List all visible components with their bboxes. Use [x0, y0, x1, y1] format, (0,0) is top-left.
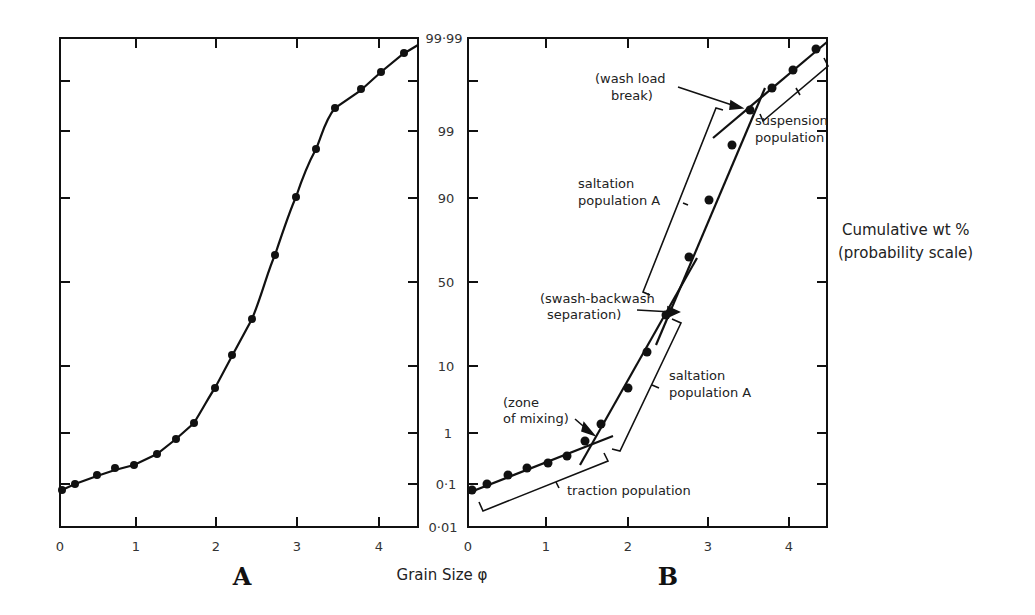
y-axis-title-line1: Cumulative wt % [842, 221, 970, 239]
svg-text:0·01: 0·01 [429, 520, 458, 535]
svg-text:50: 50 [438, 275, 455, 290]
svg-text:0·1: 0·1 [436, 477, 457, 492]
annot-suspension-2: population [755, 130, 824, 145]
x-tick-labels-a: 0 1 2 3 4 [56, 539, 383, 554]
panel-a [60, 38, 418, 527]
annot-traction: traction population [567, 483, 691, 498]
annot-suspension-1: suspension [755, 113, 828, 128]
panel-label-b: B [658, 562, 678, 591]
y-tick-labels: 99·99 99 90 50 10 1 0·1 0·01 [425, 31, 462, 535]
x-axis-title: Grain Size φ [397, 566, 488, 584]
annot-wash-load-2: break) [611, 88, 653, 103]
svg-text:4: 4 [785, 539, 793, 554]
x-tick-labels-b: 0 1 2 3 4 [464, 539, 793, 554]
svg-text:2: 2 [212, 539, 220, 554]
annot-zone-2: of mixing) [503, 411, 569, 426]
curve-a [62, 45, 418, 490]
svg-text:1: 1 [132, 539, 140, 554]
svg-text:99·99: 99·99 [425, 31, 462, 46]
svg-text:10: 10 [438, 359, 455, 374]
annot-wash-load-1: (wash load [595, 71, 666, 86]
annotations-b: (wash load break) saltation population A… [503, 71, 828, 498]
svg-text:0: 0 [464, 539, 472, 554]
annot-swash-1: (swash-backwash [540, 291, 655, 306]
annot-saltation-lower-2: population A [669, 385, 751, 400]
annot-swash-2: separation) [547, 307, 621, 322]
annot-zone-1: (zone [503, 395, 539, 410]
annot-saltation-upper-1: saltation [578, 176, 634, 191]
y-axis-title-line2: (probability scale) [838, 244, 973, 262]
annot-saltation-upper-2: population A [578, 193, 660, 208]
annot-saltation-lower-1: saltation [669, 368, 725, 383]
panel-label-a: A [232, 562, 252, 591]
svg-text:3: 3 [293, 539, 301, 554]
figure: 99·99 99 90 50 10 1 0·1 0·01 0 1 2 3 4 0… [0, 0, 1035, 615]
svg-text:0: 0 [56, 539, 64, 554]
svg-text:99: 99 [438, 124, 455, 139]
svg-text:3: 3 [704, 539, 712, 554]
svg-text:1: 1 [542, 539, 550, 554]
svg-text:4: 4 [375, 539, 383, 554]
points-b [468, 45, 821, 495]
svg-text:90: 90 [438, 191, 455, 206]
svg-text:2: 2 [624, 539, 632, 554]
svg-text:1: 1 [444, 426, 452, 441]
points-a [58, 49, 408, 494]
